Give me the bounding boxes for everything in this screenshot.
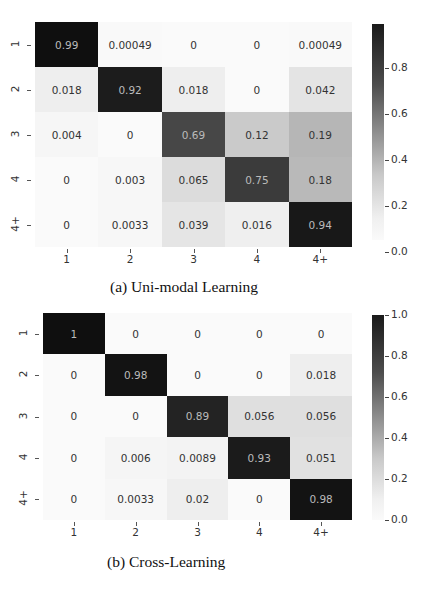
colorbar-tick-label: 0.2 xyxy=(391,472,408,484)
y-tick-label: 1 xyxy=(17,323,29,343)
confusion-matrix-cross-learning: 1000000.98000.018000.890.0560.05600.0060… xyxy=(43,313,352,520)
y-tick-label: 4 xyxy=(17,447,29,467)
heatmap-cell: 0.98 xyxy=(290,479,352,520)
heatmap-cell: 0 xyxy=(228,479,290,520)
heatmap-cell: 0 xyxy=(43,396,105,437)
heatmap-cell: 0.0089 xyxy=(167,437,229,478)
y-tick-mark xyxy=(35,334,39,335)
x-tick-label: 1 xyxy=(59,526,89,538)
heatmap-cell: 0.018 xyxy=(290,354,352,395)
heatmap-cell: 0 xyxy=(105,396,167,437)
y-tick-mark xyxy=(35,458,39,459)
heatmap-cell: 0.89 xyxy=(167,396,229,437)
heatmap-cell: 0.056 xyxy=(228,396,290,437)
heatmap-cell: 0.051 xyxy=(290,437,352,478)
heatmap-panel-cross-learning: 1000000.98000.018000.890.0560.05600.0060… xyxy=(0,0,422,594)
colorbar-tick-label: 0.8 xyxy=(391,349,408,361)
heatmap-cell: 0 xyxy=(43,354,105,395)
heatmap-cell: 0.006 xyxy=(105,437,167,478)
y-tick-label: 2 xyxy=(17,364,29,384)
heatmap-cell: 0 xyxy=(228,313,290,354)
heatmap-cell: 0.98 xyxy=(105,354,167,395)
heatmap-cell: 0 xyxy=(105,313,167,354)
heatmap-cell: 0 xyxy=(290,313,352,354)
caption-cross-learning: (b) Cross-Learning xyxy=(107,553,225,571)
colorbar-tick-label: 0.6 xyxy=(391,390,408,402)
heatmap-cell: 0.0033 xyxy=(105,479,167,520)
heatmap-cell: 0 xyxy=(228,354,290,395)
x-tick-label: 2 xyxy=(121,526,151,538)
x-tick-label: 3 xyxy=(183,526,213,538)
colorbar-tick-mark xyxy=(385,479,389,480)
y-tick-mark xyxy=(35,375,39,376)
colorbar-tick-label: 0.0 xyxy=(391,513,408,525)
x-tick-label: 4+ xyxy=(306,526,336,538)
heatmap-cell: 1 xyxy=(43,313,105,354)
heatmap-cell: 0.02 xyxy=(167,479,229,520)
colorbar-tick-label: 0.4 xyxy=(391,431,408,443)
heatmap-cell: 0 xyxy=(167,354,229,395)
colorbar-tick-mark xyxy=(385,520,389,521)
colorbar-tick-mark xyxy=(385,356,389,357)
y-tick-label: 3 xyxy=(17,406,29,426)
colorbar-tick-mark xyxy=(385,315,389,316)
x-tick-label: 4 xyxy=(244,526,274,538)
colorbar-cross-learning xyxy=(372,315,384,520)
heatmap-cell: 0.93 xyxy=(228,437,290,478)
heatmap-cell: 0 xyxy=(167,313,229,354)
heatmap-cell: 0 xyxy=(43,479,105,520)
colorbar-tick-label: 1.0 xyxy=(391,308,408,320)
y-tick-label: 4+ xyxy=(17,488,29,508)
colorbar-tick-mark xyxy=(385,438,389,439)
colorbar-tick-mark xyxy=(385,397,389,398)
y-tick-mark xyxy=(35,417,39,418)
heatmap-cell: 0.056 xyxy=(290,396,352,437)
y-tick-mark xyxy=(35,499,39,500)
heatmap-cell: 0 xyxy=(43,437,105,478)
